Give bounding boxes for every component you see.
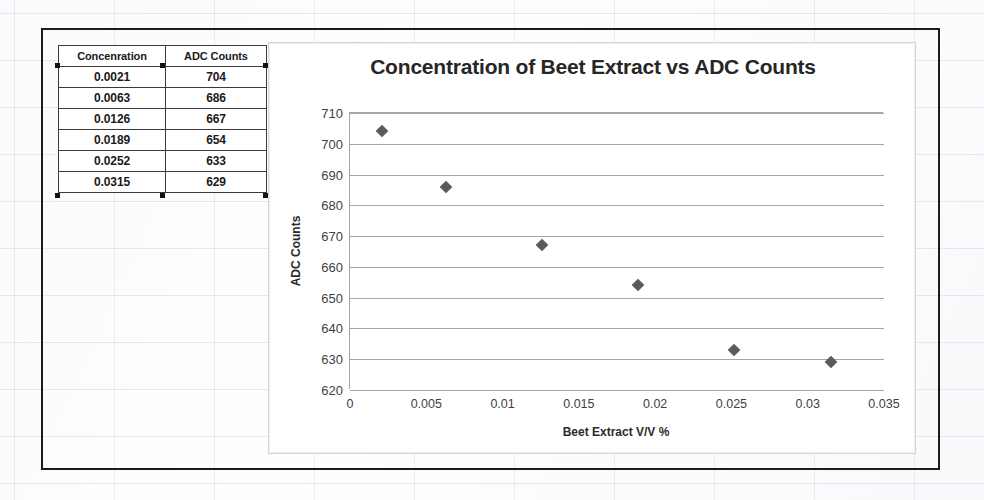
y-gridline <box>350 298 884 299</box>
data-point-marker[interactable] <box>632 279 645 292</box>
cell-adc-counts[interactable]: 667 <box>166 109 267 130</box>
y-tick-label: 650 <box>321 290 343 305</box>
x-tick-label: 0 <box>347 397 354 411</box>
y-gridline <box>350 359 884 360</box>
y-gridline <box>350 113 884 114</box>
y-gridline <box>350 328 884 329</box>
data-point-marker[interactable] <box>824 356 837 369</box>
x-tick-label: 0.01 <box>490 397 514 411</box>
cell-concentration[interactable]: 0.0063 <box>59 88 166 109</box>
table-row[interactable]: 0.0021704 <box>59 67 267 88</box>
x-tick-label: 0.03 <box>796 397 820 411</box>
cell-adc-counts[interactable]: 654 <box>166 130 267 151</box>
data-point-marker[interactable] <box>536 239 549 252</box>
y-tick-label: 710 <box>321 106 343 121</box>
x-tick-label: 0.005 <box>411 397 442 411</box>
cell-concentration[interactable]: 0.0189 <box>59 130 166 151</box>
table-row[interactable]: 0.0252633 <box>59 151 267 172</box>
y-tick-label: 660 <box>321 259 343 274</box>
x-tick-label: 0.035 <box>868 397 899 411</box>
y-tick-label: 680 <box>321 198 343 213</box>
table-row[interactable]: 0.0315629 <box>59 172 267 193</box>
data-point-marker[interactable] <box>440 180 453 193</box>
cell-concentration[interactable]: 0.0126 <box>59 109 166 130</box>
y-tick-label: 640 <box>321 321 343 336</box>
y-tick-label: 700 <box>321 136 343 151</box>
x-axis-title: Beet Extract V/V % <box>349 425 883 439</box>
selection-handle-bottom-left[interactable] <box>55 193 60 198</box>
cell-adc-counts[interactable]: 686 <box>166 88 267 109</box>
y-gridline <box>350 236 884 237</box>
data-point-marker[interactable] <box>376 125 389 138</box>
table-row[interactable]: 0.0063686 <box>59 88 267 109</box>
cell-adc-counts[interactable]: 633 <box>166 151 267 172</box>
cell-adc-counts[interactable]: 629 <box>166 172 267 193</box>
table-row[interactable]: 0.0126667 <box>59 109 267 130</box>
cell-concentration[interactable]: 0.0021 <box>59 67 166 88</box>
chart-title: Concentration of Beet Extract vs ADC Cou… <box>269 55 917 79</box>
y-gridline <box>350 205 884 206</box>
y-tick-label: 620 <box>321 383 343 398</box>
selection-handle-bottom-center[interactable] <box>160 193 165 198</box>
cell-adc-counts[interactable]: 704 <box>166 67 267 88</box>
selection-handle-top-center[interactable] <box>160 63 165 68</box>
y-gridline <box>350 175 884 176</box>
data-point-marker[interactable] <box>728 344 741 357</box>
x-tick-label: 0.025 <box>716 397 747 411</box>
y-tick-label: 670 <box>321 229 343 244</box>
column-header-concentration[interactable]: Concenration <box>59 46 166 67</box>
y-tick-label: 630 <box>321 352 343 367</box>
chart-object[interactable]: Concentration of Beet Extract vs ADC Cou… <box>268 42 916 454</box>
cell-concentration[interactable]: 0.0252 <box>59 151 166 172</box>
selection-handle-top-left[interactable] <box>55 63 60 68</box>
data-table-container[interactable]: Concenration ADC Counts 0.00217040.00636… <box>58 45 266 193</box>
x-tick-label: 0.02 <box>643 397 667 411</box>
x-tick-label: 0.015 <box>563 397 594 411</box>
y-tick-label: 690 <box>321 167 343 182</box>
y-gridline <box>350 390 884 391</box>
y-gridline <box>350 267 884 268</box>
plot-area[interactable]: 62063064065066067068069070071000.0050.01… <box>349 112 883 389</box>
column-header-adc-counts[interactable]: ADC Counts <box>166 46 267 67</box>
table-row[interactable]: 0.0189654 <box>59 130 267 151</box>
cell-concentration[interactable]: 0.0315 <box>59 172 166 193</box>
y-gridline <box>350 144 884 145</box>
y-axis-title: ADC Counts <box>289 216 303 287</box>
